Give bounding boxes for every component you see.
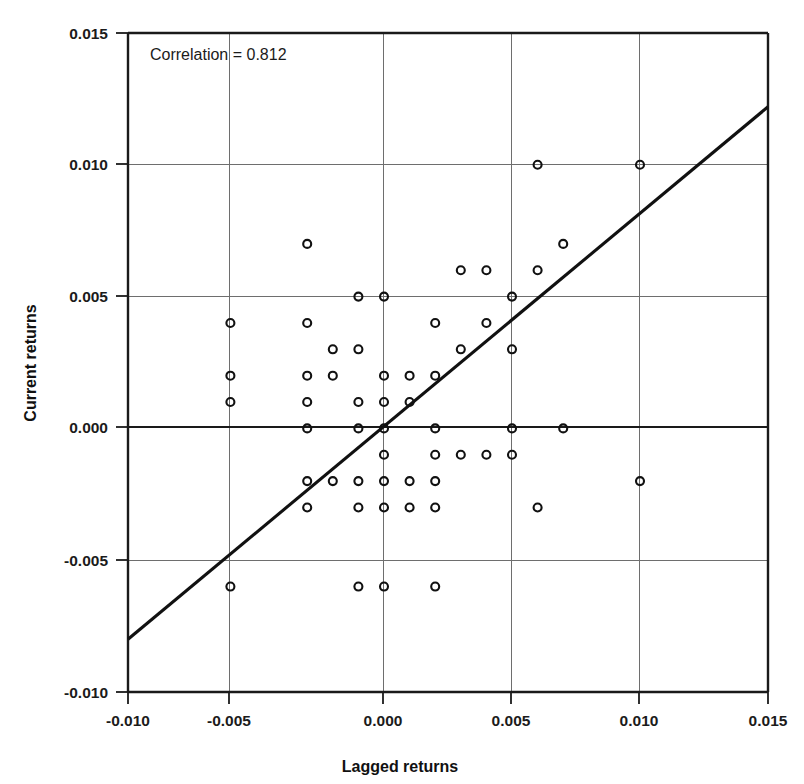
data-point [431,477,439,485]
data-point [457,345,465,353]
x-gridlines [229,33,639,692]
plot-frame [128,33,768,692]
data-point [226,398,234,406]
data-point [380,583,388,591]
data-point [303,319,311,327]
x-tick-label-0: -0.010 [106,712,150,729]
correlation-annotation: Correlation = 0.812 [150,46,287,63]
data-point [457,451,465,459]
data-point [559,424,567,432]
data-point [636,477,644,485]
data-point [226,583,234,591]
data-point [431,583,439,591]
x-tick-label-1: -0.005 [207,712,251,729]
x-tick-labels: -0.010 -0.005 0.000 0.005 0.010 0.015 [106,712,788,729]
data-point [380,398,388,406]
scatter-plot-figure: 0.015 0.010 0.005 0.000 -0.005 -0.010 -0… [0,0,804,784]
y-tick-label-0: -0.010 [64,684,108,701]
data-point [354,477,362,485]
data-point [329,477,337,485]
data-point [431,372,439,380]
data-point [534,503,542,511]
y-tick-label-3: 0.005 [69,288,108,305]
data-point [354,583,362,591]
x-tick-label-5: 0.015 [749,712,788,729]
scatter-markers [226,161,644,591]
data-point [226,372,234,380]
data-point [406,372,414,380]
data-point [636,161,644,169]
data-point [431,451,439,459]
y-tick-label-1: -0.005 [64,552,108,569]
regression-trend-line [128,107,768,639]
data-point [303,424,311,432]
trend-line-segment [128,107,768,639]
data-point [380,293,388,301]
data-point [457,266,465,274]
data-point [354,503,362,511]
y-tick-label-4: 0.010 [69,156,108,173]
data-point [303,240,311,248]
data-point [508,451,516,459]
data-point [380,477,388,485]
y-axis-title: Current returns [22,304,39,421]
data-point [534,161,542,169]
data-point [380,451,388,459]
data-point [380,372,388,380]
data-point [482,266,490,274]
data-point [534,266,542,274]
data-point [508,293,516,301]
data-point [482,319,490,327]
x-tick-label-3: 0.005 [492,712,531,729]
data-point [354,293,362,301]
data-point [226,319,234,327]
data-point [329,372,337,380]
data-point [354,424,362,432]
data-point [431,319,439,327]
data-point [354,345,362,353]
data-point [354,398,362,406]
y-tick-marks [116,33,128,692]
y-tick-label-5: 0.015 [69,25,108,42]
x-tick-marks [128,692,768,704]
data-point [482,451,490,459]
plot-svg: 0.015 0.010 0.005 0.000 -0.005 -0.010 -0… [0,0,804,784]
y-tick-labels: 0.015 0.010 0.005 0.000 -0.005 -0.010 [64,25,108,701]
data-point [329,345,337,353]
data-point [303,398,311,406]
data-point [406,477,414,485]
x-tick-label-4: 0.010 [620,712,659,729]
y-gridlines [128,164,768,560]
data-point [303,503,311,511]
x-tick-label-2: 0.000 [364,712,403,729]
data-point [303,372,311,380]
data-point [559,240,567,248]
data-point [508,345,516,353]
data-point [406,503,414,511]
data-point [431,503,439,511]
data-point [431,424,439,432]
x-axis-title: Lagged returns [342,758,459,775]
data-point [508,424,516,432]
data-point [303,477,311,485]
y-tick-label-2: 0.000 [69,419,108,436]
data-point [380,503,388,511]
